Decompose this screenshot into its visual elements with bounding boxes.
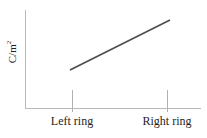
plot-area bbox=[0, 0, 207, 138]
chart-figure: C/m2 Left ring Right ring bbox=[0, 0, 207, 138]
data-series-line bbox=[70, 20, 170, 70]
